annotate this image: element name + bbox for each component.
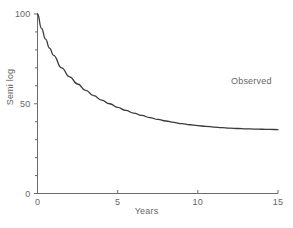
- observed-series-label: Observed: [231, 76, 272, 86]
- x-axis-tick-label: 5: [103, 197, 133, 207]
- observed-data-curve: [38, 14, 279, 130]
- y-axis-tick-marks: [34, 14, 38, 194]
- x-axis-tick-label: 0: [23, 197, 53, 207]
- axes-group: [37, 13, 278, 194]
- x-axis-tick-label: 15: [263, 197, 293, 207]
- chart-container: 050100 051015 Years Semi log Observed: [0, 0, 293, 228]
- y-axis-tick-label: 100: [0, 9, 31, 19]
- x-axis-tick-label: 10: [183, 197, 213, 207]
- x-axis-tick-marks: [38, 190, 279, 194]
- x-axis-title: Years: [0, 206, 293, 216]
- y-axis-title: Semi log: [5, 57, 15, 117]
- chart-plot-area: [0, 0, 293, 228]
